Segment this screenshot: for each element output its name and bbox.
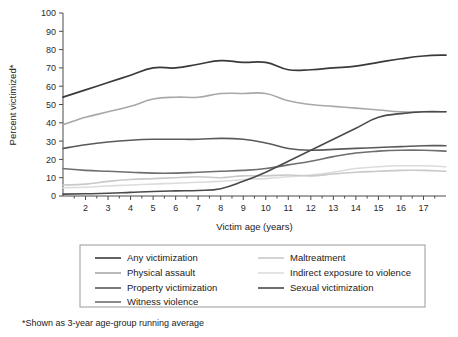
y-tick-label: 60 [46,82,56,92]
legend-label: Sexual victimization [290,282,373,293]
x-tick-label: 13 [328,203,338,213]
y-axis-title: Percent victimized* [7,64,18,145]
x-tick-label: 10 [261,203,271,213]
legend-label: Indirect exposure to violence [290,267,411,278]
y-tick-label: 30 [46,137,56,147]
legend-item: Witness violence [95,296,198,307]
x-tick-label: 12 [306,203,316,213]
x-tick-label: 6 [173,203,178,213]
y-tick-label: 50 [46,100,56,110]
x-axis-title: Victim age (years) [216,221,292,232]
y-tick-label: 0 [51,191,56,201]
chart-figure: 0102030405060708090100 23456789101112131… [0,0,458,337]
x-tick-label: 16 [396,203,406,213]
legend-label: Property victimization [127,282,217,293]
y-axis-ticks: 0102030405060708090100 [41,8,63,201]
x-tick-label: 17 [418,203,428,213]
y-tick-label: 100 [41,8,56,18]
axis-lines [63,13,446,196]
y-tick-label: 90 [46,27,56,37]
x-tick-label: 4 [128,203,133,213]
legend-label: Maltreatment [290,252,346,263]
legend-item: Physical assault [95,267,195,278]
series-lines [63,55,446,194]
chart-legend: Any victimizationPhysical assaultPropert… [80,245,425,307]
footnote: *Shown as 3-year age-group running avera… [22,318,204,328]
series-line [63,138,446,150]
x-axis-ticks: 234567891011121314151617 [74,196,434,213]
x-tick-label: 7 [196,203,201,213]
x-tick-label: 5 [151,203,156,213]
y-tick-label: 70 [46,63,56,73]
legend-label: Any victimization [127,252,198,263]
y-tick-label: 20 [46,155,56,165]
legend-item: Any victimization [95,252,198,263]
legend-item: Indirect exposure to violence [258,267,411,278]
x-tick-label: 2 [83,203,88,213]
x-tick-label: 8 [218,203,223,213]
legend-label: Physical assault [127,267,195,278]
series-line [63,55,446,97]
y-tick-label: 80 [46,45,56,55]
series-line [63,150,446,173]
series-line [63,93,446,125]
series-line [63,112,446,195]
x-tick-label: 3 [106,203,111,213]
y-tick-label: 40 [46,118,56,128]
legend-item: Sexual victimization [258,282,373,293]
legend-item: Property victimization [95,282,217,293]
legend-item: Maltreatment [258,252,346,263]
legend-label: Witness violence [127,296,198,307]
x-tick-label: 14 [351,203,361,213]
x-tick-label: 9 [241,203,246,213]
y-tick-label: 10 [46,173,56,183]
x-tick-label: 11 [284,203,293,213]
x-tick-label: 15 [373,203,383,213]
line-chart: 0102030405060708090100 23456789101112131… [0,0,458,337]
